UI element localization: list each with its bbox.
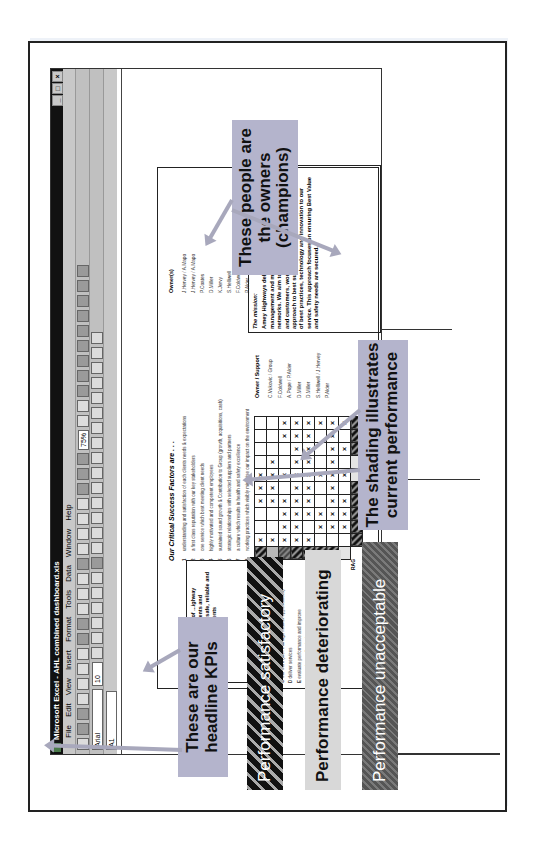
grid-cell: × [315,521,327,534]
grid-cell: × [327,495,339,508]
save-icon[interactable] [77,708,89,720]
bold-icon[interactable] [91,647,103,659]
redo-icon[interactable] [77,573,89,585]
grid-cell: × [303,534,315,547]
align-right-icon[interactable] [91,572,103,584]
extra-icon-1[interactable] [77,400,89,412]
legend-satisfactory: Performance satisfactory [247,557,283,790]
font-color-icon[interactable] [91,407,103,419]
grid-row: ××××× [267,417,279,560]
close-button[interactable]: × [52,71,63,82]
extra-icon-10[interactable] [77,265,89,277]
grid-cell: × [279,508,291,521]
preview-icon[interactable] [77,678,89,690]
grid-cell: × [303,417,315,430]
menu-data[interactable]: Data [63,565,75,582]
name-box[interactable]: A1 [106,691,117,750]
format-painter-icon[interactable] [77,603,89,615]
menu-window[interactable]: Window [63,529,75,557]
maximize-button[interactable]: □ [52,83,63,94]
draw-tool-1[interactable] [91,392,103,404]
extra-icon-7[interactable] [77,310,89,322]
align-center-icon[interactable] [91,587,103,599]
hyperlink-icon[interactable] [77,558,89,570]
menu-edit[interactable]: Edit [63,703,75,717]
spelling-icon[interactable] [77,663,89,675]
align-left-icon[interactable] [91,602,103,614]
menu-format[interactable]: Format [63,617,75,642]
title-bar: Microsoft Excel - AHL combined dashboard… [51,69,63,754]
chart-wizard-icon[interactable] [77,483,89,495]
comma-icon[interactable] [91,512,103,524]
support-list: C.Vukovic / Group F.Coldwell A.Pope / P.… [266,353,333,398]
menu-tools[interactable]: Tools [63,590,75,609]
grid-cell [255,430,267,443]
decrease-indent-icon[interactable] [91,467,103,479]
increase-decimal-icon[interactable] [91,497,103,509]
draw-tool-5[interactable] [91,332,103,344]
grid-cell: × [327,521,339,534]
menu-help[interactable]: Help [63,504,75,520]
paste-icon[interactable] [77,618,89,630]
extra-icon-2[interactable] [77,385,89,397]
grid-cell: × [267,482,279,495]
undo-icon[interactable] [77,588,89,600]
connector-line [380,753,500,755]
cut-icon[interactable] [77,648,89,660]
grid-cell [255,417,267,430]
draw-tool-3[interactable] [91,362,103,374]
drawing-icon[interactable] [77,453,89,465]
borders-icon[interactable] [91,437,103,449]
extra-icon-4[interactable] [77,355,89,367]
italic-icon[interactable] [91,632,103,644]
support-owner: S.Helliwell / J.Hervey [314,353,324,398]
draw-tool-2[interactable] [91,377,103,389]
grid-cell: × [303,482,315,495]
draw-tool-4[interactable] [91,347,103,359]
support-owner: P.Alder [323,353,333,398]
sort-desc-icon[interactable] [77,498,89,510]
menu-view[interactable]: View [63,678,75,695]
owner: P.Coates [198,254,207,293]
grid-cell: × [255,482,267,495]
underline-icon[interactable] [91,617,103,629]
font-size-select[interactable]: 10 [92,662,103,686]
grid-cell: × [327,456,339,469]
sort-asc-icon[interactable] [77,513,89,525]
grid-cell [339,456,351,469]
column-headers [117,69,122,754]
extra-icon-5[interactable] [77,340,89,352]
grid-cell: × [303,508,315,521]
menu-insert[interactable]: Insert [63,650,75,670]
increase-indent-icon[interactable] [91,452,103,464]
grid-cell [279,482,291,495]
owner: D.Miller [207,254,216,293]
currency-icon[interactable] [91,542,103,554]
decrease-decimal-icon[interactable] [91,482,103,494]
merge-center-icon[interactable] [91,557,103,569]
help-icon[interactable] [77,415,89,427]
extra-icon-8[interactable] [77,295,89,307]
extra-icon-3[interactable] [77,370,89,382]
grid-cell: × [315,508,327,521]
print-icon[interactable] [77,693,89,705]
grid-cell [267,417,279,430]
map-icon[interactable] [77,468,89,480]
menu-file[interactable]: File [63,725,75,738]
grid-cell [315,534,327,547]
function-icon[interactable] [77,528,89,540]
extra-icon-6[interactable] [77,325,89,337]
grid-cell: × [291,508,303,521]
zoom-select[interactable]: 75% [78,430,89,450]
open-icon[interactable] [77,723,89,735]
copy-icon[interactable] [77,633,89,645]
autosum-icon[interactable] [77,543,89,555]
font-name-select[interactable]: Arial [92,689,103,750]
csf-list: 1understanding and satisfaction of each … [180,321,252,561]
percent-icon[interactable] [91,527,103,539]
fill-color-icon[interactable] [91,422,103,434]
owner: J.Hervey / A.Mapo [189,254,198,293]
grid-cell: × [315,417,327,430]
minimize-button[interactable]: _ [52,95,63,106]
extra-icon-9[interactable] [77,280,89,292]
